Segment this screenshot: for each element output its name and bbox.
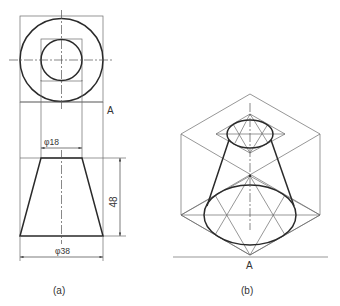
front-view [20, 150, 103, 244]
svg-text:φ38: φ38 [55, 246, 70, 256]
drawing-canvas: A φ18 48 φ38 (a) [0, 0, 340, 306]
dim-bottom-diameter: φ38 [20, 236, 103, 261]
view-a: A φ18 48 φ38 (a) [9, 10, 126, 296]
caption-a: (a) [53, 285, 65, 296]
cone-right-edge [271, 140, 294, 206]
top-view [9, 10, 114, 110]
dim-height: 48 [108, 158, 120, 236]
isometric-box [181, 94, 320, 255]
axis-point [249, 175, 252, 178]
svg-text:48: 48 [108, 196, 119, 208]
caption-b: (b) [241, 285, 253, 296]
view-b: A (b) [173, 94, 328, 296]
point-a-label-left: A [107, 105, 114, 116]
bottom-rhombus [181, 176, 320, 255]
point-a-label-right: A [246, 260, 253, 271]
dim-top-diameter: φ18 [41, 137, 82, 148]
cone-left-edge [207, 140, 229, 206]
svg-text:φ18: φ18 [44, 137, 59, 147]
